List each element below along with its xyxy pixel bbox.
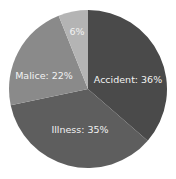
pie-chart: Accident: 36% Illness: 35% Malice: 22% 6… (0, 0, 176, 179)
slice-label-accident: Accident: 36% (94, 74, 162, 85)
pie-slices (9, 10, 167, 168)
slice-label-other: 6% (69, 26, 84, 37)
slice-label-illness: Illness: 35% (51, 124, 108, 135)
slice-label-malice: Malice: 22% (15, 70, 73, 81)
